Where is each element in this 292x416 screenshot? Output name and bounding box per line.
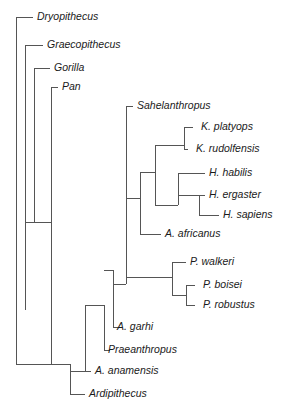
phylogenetic-tree: DryopithecusGraecopithecusGorillaPanSahe… bbox=[0, 0, 292, 416]
taxon-label-h-sapiens: H. sapiens bbox=[223, 208, 273, 220]
cladogram-figure: DryopithecusGraecopithecusGorillaPanSahe… bbox=[0, 0, 292, 416]
taxon-label-p-boisei: P. boisei bbox=[203, 278, 243, 290]
taxon-label-a-anamensis: A. anamensis bbox=[94, 364, 159, 376]
branch-layer bbox=[16, 17, 219, 394]
taxon-label-h-ergaster: H. ergaster bbox=[209, 188, 261, 200]
branch-root-stub bbox=[16, 310, 53, 364]
taxon-label-graecopithecus: Graecopithecus bbox=[47, 38, 121, 50]
taxon-label-pan: Pan bbox=[62, 80, 81, 92]
taxon-label-p-walkeri: P. walkeri bbox=[190, 255, 235, 267]
taxon-label-sahelanthropus: Sahelanthropus bbox=[137, 99, 211, 111]
taxon-label-a-africanus: A. africanus bbox=[164, 227, 221, 239]
taxon-label-a-garhi: A. garhi bbox=[116, 320, 154, 332]
taxon-label-h-habilis: H. habilis bbox=[209, 166, 253, 178]
taxon-label-ardipithecus: Ardipithecus bbox=[88, 387, 148, 399]
taxon-label-p-robustus: P. robustus bbox=[203, 298, 256, 310]
taxon-label-praeanthropus: Praeanthropus bbox=[108, 343, 178, 355]
taxon-label-dryopithecus: Dryopithecus bbox=[37, 10, 99, 22]
taxon-label-k-platyops: K. platyops bbox=[201, 120, 254, 132]
taxon-label-gorilla: Gorilla bbox=[54, 61, 85, 73]
taxon-label-k-rudolfensis: K. rudolfensis bbox=[196, 142, 260, 154]
